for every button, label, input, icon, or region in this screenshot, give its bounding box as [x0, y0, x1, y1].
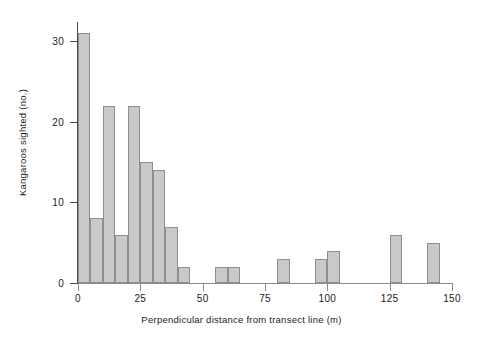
x-tick-mark: [203, 284, 204, 291]
y-tick-mark: [70, 283, 78, 284]
histogram-bar: [228, 267, 240, 283]
x-tick-mark: [78, 284, 79, 291]
x-tick-mark: [140, 284, 141, 291]
x-tick-mark: [327, 284, 328, 291]
x-tick-label: 150: [443, 293, 461, 304]
histogram-bar: [78, 33, 90, 283]
histogram-bar: [178, 267, 190, 283]
histogram-bar: [140, 162, 152, 283]
x-tick-mark: [265, 284, 266, 291]
histogram-bar: [165, 227, 177, 283]
x-tick-label: 50: [197, 293, 209, 304]
histogram-bar: [128, 106, 140, 283]
plot-area: [78, 22, 452, 283]
x-tick-label: 100: [319, 293, 337, 304]
x-tick-label: 0: [75, 293, 81, 304]
histogram-bar: [215, 267, 227, 283]
x-tick-label: 75: [259, 293, 271, 304]
x-tick-label: 125: [381, 293, 399, 304]
y-tick-label: 30: [22, 36, 64, 47]
histogram-bar: [315, 259, 327, 283]
x-tick-mark: [452, 284, 453, 291]
y-tick-label: 10: [22, 197, 64, 208]
y-tick-mark: [70, 122, 78, 123]
y-tick-mark: [70, 202, 78, 203]
histogram-figure: 0102030 Kangaroos sighted (no.) Perpendi…: [0, 0, 483, 337]
x-tick-mark: [390, 284, 391, 291]
y-tick-mark: [70, 41, 78, 42]
x-tick-label: 25: [134, 293, 146, 304]
y-tick-label: 0: [22, 278, 64, 289]
histogram-bar: [90, 218, 102, 283]
y-tick-label: 20: [22, 116, 64, 127]
y-axis-ticks: 0102030: [0, 0, 78, 337]
histogram-bar: [390, 235, 402, 283]
histogram-bar: [103, 106, 115, 283]
histogram-bar: [277, 259, 289, 283]
y-axis-title: Kangaroos sighted (no.): [17, 48, 28, 238]
histogram-bar: [427, 243, 439, 283]
histogram-bar: [115, 235, 127, 283]
histogram-bar: [153, 170, 165, 283]
histogram-bar: [327, 251, 339, 283]
x-axis-title: Perpendicular distance from transect lin…: [0, 314, 483, 325]
